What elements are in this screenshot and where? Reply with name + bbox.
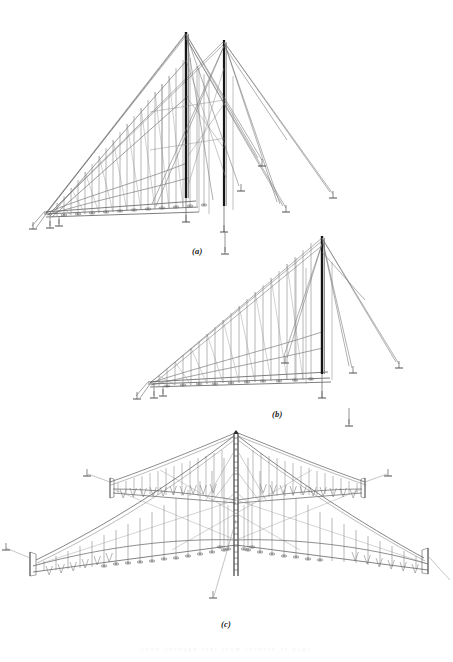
panel-c-tip-far-left (83, 469, 114, 498)
panel-c-free-post (345, 408, 353, 426)
figure-caption-c: (c) (221, 619, 231, 629)
panel-c-wing-far-right (238, 433, 392, 503)
figure-caption-a: (a) (192, 246, 203, 256)
page-showthrough: show-through text from reverse of page (0, 646, 453, 658)
panel-c-tip-near-right (422, 548, 450, 580)
panel-c-wing-near-left (2, 436, 236, 576)
panel-c-wing-near-right (236, 436, 450, 580)
panel-c-geometry (2, 408, 450, 598)
panel-c-tip-far-right (361, 469, 392, 498)
figure-caption-b: (b) (272, 409, 283, 419)
panel-c-wing-far-left (83, 433, 236, 503)
panel-c-drawing (0, 0, 453, 662)
panel-c-tip-near-left (2, 543, 36, 576)
figure-sheet: (a) (b) (c) show-through text from rever… (0, 0, 453, 662)
